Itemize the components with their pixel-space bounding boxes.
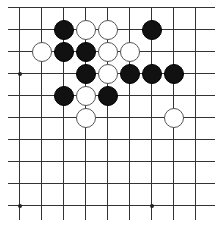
black-stone xyxy=(54,20,74,40)
go-board[interactable] xyxy=(0,0,221,226)
grid-line-vertical xyxy=(41,7,42,220)
white-stone xyxy=(76,86,96,106)
black-stone xyxy=(142,20,162,40)
white-stone xyxy=(98,64,118,84)
white-stone xyxy=(120,42,140,62)
grid-line-horizontal xyxy=(8,161,215,162)
star-point xyxy=(18,72,22,76)
grid-line-vertical xyxy=(129,7,130,220)
grid-line-horizontal xyxy=(8,139,215,140)
black-stone xyxy=(142,64,162,84)
black-stone xyxy=(76,64,96,84)
grid-line-horizontal xyxy=(8,117,215,118)
grid-line-vertical xyxy=(195,7,196,220)
white-stone xyxy=(32,42,52,62)
black-stone xyxy=(120,64,140,84)
white-stone xyxy=(164,108,184,128)
white-stone xyxy=(76,108,96,128)
grid-line-horizontal xyxy=(8,7,215,8)
black-stone xyxy=(164,64,184,84)
white-stone xyxy=(76,20,96,40)
grid-line-vertical xyxy=(19,7,20,220)
grid-line-horizontal xyxy=(8,205,215,206)
black-stone xyxy=(98,86,118,106)
white-stone xyxy=(98,20,118,40)
star-point xyxy=(18,204,22,208)
white-stone xyxy=(98,42,118,62)
black-stone xyxy=(54,42,74,62)
grid-line-horizontal xyxy=(8,183,215,184)
black-stone xyxy=(76,42,96,62)
black-stone xyxy=(54,86,74,106)
star-point xyxy=(150,204,154,208)
